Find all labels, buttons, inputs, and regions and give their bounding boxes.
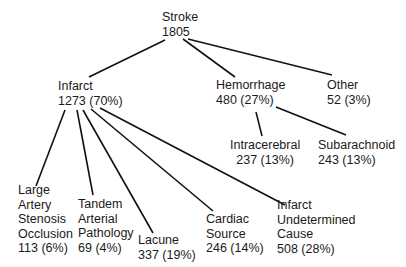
node-label-line: Arterial [78,212,134,227]
node-other: Other 52 (3%) [327,78,371,107]
node-value: 480 (27%) [216,93,285,108]
node-infarct-undetermined: Infarct Undetermined Cause 508 (28%) [277,198,356,256]
node-label-line: Occlusion [18,227,73,242]
node-label-line: Tandem [78,197,134,212]
node-subarachnoid: Subarachnoid 243 (13%) [318,138,395,167]
node-lacune: Lacune 337 (19%) [138,233,196,262]
node-hemorrhage: Hemorrhage 480 (27%) [216,78,285,107]
node-label-line: Source [206,227,264,242]
node-label: Stroke [162,10,198,25]
node-label-line: Stenosis [18,212,73,227]
node-label: Infarct [58,79,123,94]
node-label: Other [327,78,371,93]
node-cardiac-source: Cardiac Source 246 (14%) [206,212,264,256]
edge-hemorrhage-intracerebral [256,112,262,136]
edge-hemorrhage-subarachnoid [276,107,346,135]
node-label: Hemorrhage [216,78,285,93]
node-label: Subarachnoid [318,138,395,153]
edge-infarct-large-artery [36,110,65,186]
node-value: 1805 [162,25,198,40]
node-value: 337 (19%) [138,248,196,263]
node-value: 237 (13%) [230,153,300,168]
node-label-line: Cardiac [206,212,264,227]
node-label-line: Infarct [277,198,356,213]
node-stroke: Stroke 1805 [162,10,198,39]
edge-stroke-infarct [89,40,165,77]
node-value: 508 (28%) [277,242,356,257]
node-label-line: Undetermined [277,213,356,228]
node-intracerebral: Intracerebral 237 (13%) [230,138,300,167]
node-value: 1273 (70%) [58,94,123,109]
edge-stroke-other [188,39,332,75]
node-label-line: Pathology [78,226,134,241]
node-value: 69 (4%) [78,241,134,256]
node-value: 52 (3%) [327,93,371,108]
node-label: Intracerebral [230,138,300,153]
node-value: 113 (6%) [18,241,73,256]
node-large-artery: Large Artery Stenosis Occlusion 113 (6%) [18,183,73,256]
node-infarct: Infarct 1273 (70%) [58,79,123,108]
node-tandem-arterial: Tandem Arterial Pathology 69 (4%) [78,197,134,255]
node-label-line: Cause [277,227,356,242]
node-label-line: Lacune [138,233,196,248]
edge-infarct-cardiac [91,109,213,211]
node-value: 243 (13%) [318,153,395,168]
node-label-line: Artery [18,198,73,213]
node-label-line: Large [18,183,73,198]
node-value: 246 (14%) [206,241,264,256]
